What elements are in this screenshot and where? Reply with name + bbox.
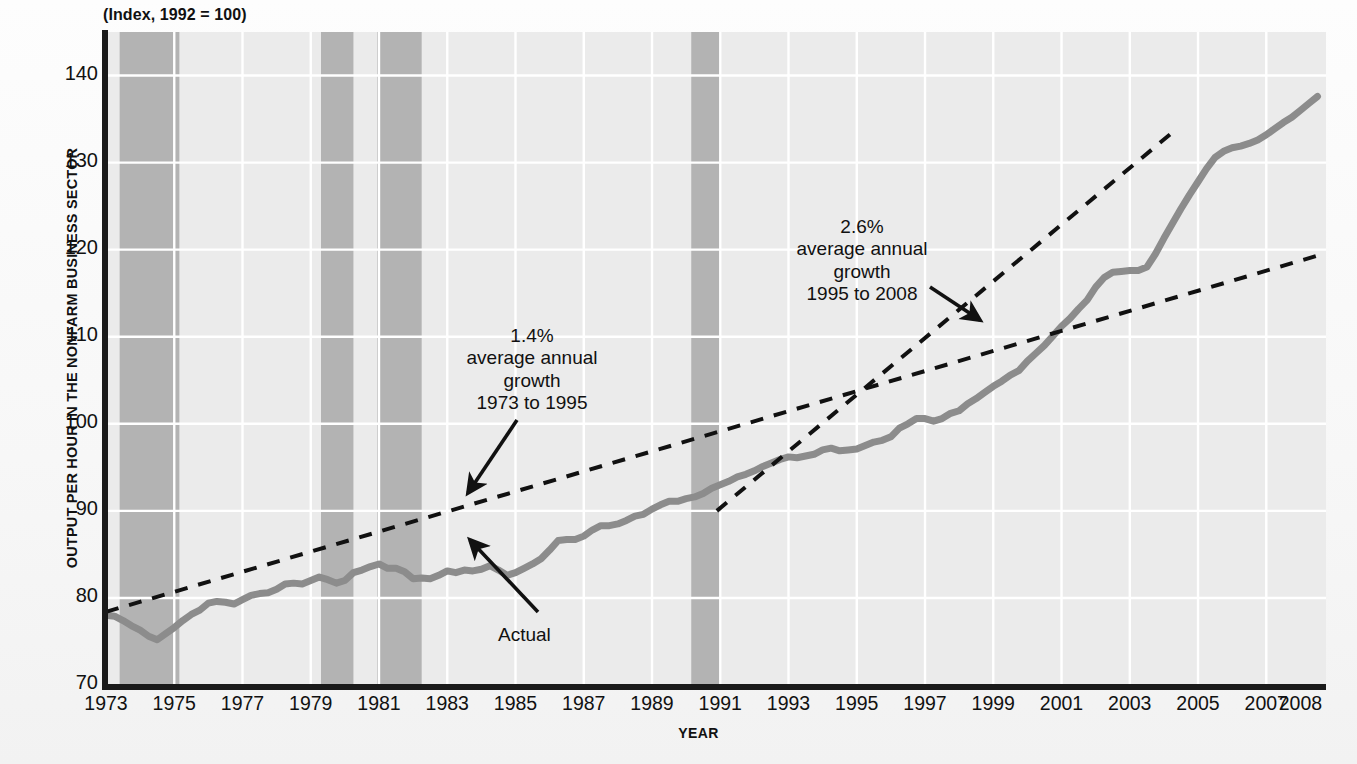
recession-band-4 <box>691 32 720 685</box>
chart-figure: (Index, 1992 = 100) OUTPUT PER HOUR IN T… <box>0 0 1357 764</box>
actual-annotation: Actual <box>498 624 551 646</box>
trend-1-annotation: 1.4% average annual growth 1973 to 1995 <box>432 325 632 415</box>
recession-band-2 <box>321 32 353 685</box>
recession-band-1 <box>120 32 180 685</box>
chart-plot-area <box>0 0 1357 764</box>
trend-2-annotation: 2.6% average annual growth 1995 to 2008 <box>762 216 962 306</box>
recession-band-3 <box>377 32 421 685</box>
